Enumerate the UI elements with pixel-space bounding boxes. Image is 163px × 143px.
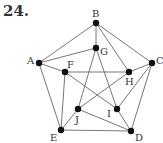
- vertex-label-D: D: [135, 132, 143, 143]
- edge-AE: [39, 63, 61, 130]
- vertex-label-J: J: [74, 114, 79, 125]
- edge-GI: [96, 48, 117, 109]
- vertex-label-C: C: [156, 55, 163, 66]
- graph-diagram: ABCDEFGHIJ: [0, 0, 163, 143]
- edge-JD: [78, 109, 131, 131]
- vertex-label-G: G: [100, 46, 108, 57]
- vertex-label-E: E: [50, 132, 57, 143]
- edge-AF: [39, 63, 65, 72]
- vertex-D: [128, 128, 134, 134]
- vertex-A: [36, 60, 42, 66]
- edge-FE: [61, 72, 65, 130]
- edge-BC: [96, 23, 152, 63]
- edge-CD: [131, 63, 152, 131]
- vertex-I: [114, 106, 120, 112]
- vertex-C: [149, 60, 155, 66]
- vertex-label-I: I: [107, 108, 111, 119]
- vertex-B: [93, 20, 99, 26]
- vertex-label-H: H: [125, 76, 134, 87]
- edge-AB: [39, 23, 96, 63]
- vertex-label-A: A: [26, 55, 35, 66]
- vertex-G: [93, 45, 99, 51]
- vertex-label-F: F: [67, 59, 74, 70]
- vertex-E: [58, 127, 64, 133]
- edge-FI: [65, 72, 117, 109]
- vertex-J: [75, 106, 81, 112]
- edge-GJ: [78, 48, 96, 109]
- edge-ED: [61, 130, 131, 131]
- vertex-H: [126, 69, 132, 75]
- vertex-label-B: B: [92, 8, 99, 19]
